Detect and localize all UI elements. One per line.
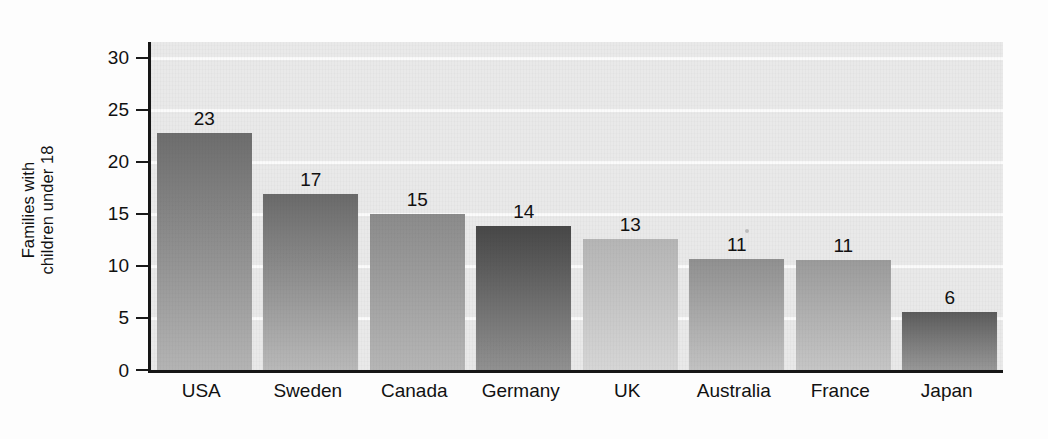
- y-axis-title-line-2: children under 18: [38, 145, 57, 274]
- y-tick-mark: [136, 369, 148, 371]
- bar-france[interactable]: 11: [796, 260, 891, 370]
- plot-inner: 231715141311116: [151, 42, 1003, 370]
- bar-usa[interactable]: 23: [157, 133, 252, 370]
- x-axis-labels: USASwedenCanadaGermanyUKAustraliaFranceJ…: [148, 381, 1000, 415]
- x-axis-label-usa: USA: [182, 381, 221, 400]
- y-tick-label: 30: [108, 48, 136, 67]
- y-tick-label: 5: [118, 308, 136, 327]
- x-axis-label-canada: Canada: [381, 381, 448, 400]
- x-axis-label-japan: Japan: [921, 381, 973, 400]
- y-tick-label: 15: [108, 204, 136, 223]
- bar-canada[interactable]: 15: [370, 214, 465, 370]
- y-axis-title-line-1: Families with: [19, 162, 38, 259]
- x-axis-label-uk: UK: [614, 381, 640, 400]
- y-axis-ticks: 051015202530: [96, 0, 148, 439]
- x-axis-label-australia: Australia: [697, 381, 771, 400]
- bar-japan[interactable]: 6: [902, 312, 997, 370]
- y-tick-mark: [136, 109, 148, 111]
- y-tick-mark: [136, 57, 148, 59]
- y-axis-title: Families with children under 18: [10, 45, 66, 375]
- y-tick-label: 10: [108, 256, 136, 275]
- y-tick-mark: [136, 265, 148, 267]
- chart-canvas: Families with children under 18 05101520…: [0, 0, 1048, 439]
- gridline-30: [151, 57, 1003, 60]
- y-tick-mark: [136, 213, 148, 215]
- bar-value-label: 11: [833, 236, 853, 255]
- gridline-20: [151, 161, 1003, 164]
- y-tick-label: 0: [118, 360, 136, 379]
- bar-value-label: 23: [194, 109, 215, 128]
- y-tick-label: 25: [108, 100, 136, 119]
- y-tick-mark: [136, 317, 148, 319]
- bar-value-label: 11: [727, 235, 747, 254]
- bar-value-label: 6: [944, 288, 955, 307]
- bar-value-label: 15: [407, 190, 428, 209]
- bar-value-label: 14: [513, 202, 534, 221]
- x-axis-label-france: France: [811, 381, 870, 400]
- bar-germany[interactable]: 14: [476, 226, 571, 370]
- bar-uk[interactable]: 13: [583, 239, 678, 370]
- gridline-25: [151, 109, 1003, 112]
- bar-value-label: 13: [620, 215, 641, 234]
- bar-sweden[interactable]: 17: [263, 194, 358, 370]
- x-axis-label-sweden: Sweden: [273, 381, 342, 400]
- y-tick-mark: [136, 161, 148, 163]
- plot-area: 231715141311116: [148, 42, 1003, 373]
- x-axis-label-germany: Germany: [482, 381, 560, 400]
- bar-value-label: 17: [300, 170, 321, 189]
- bar-australia[interactable]: 11: [689, 259, 784, 370]
- y-tick-label: 20: [108, 152, 136, 171]
